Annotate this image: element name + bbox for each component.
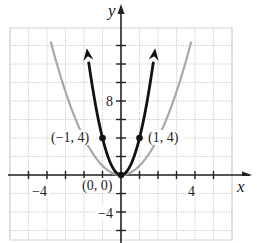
y-axis xyxy=(118,4,125,243)
y-axis-label: y xyxy=(106,1,116,20)
tick-label-y-neg4: −4 xyxy=(98,206,113,221)
tick-label-x-4: 4 xyxy=(188,184,195,199)
point-label-1-4: (1, 4) xyxy=(148,130,179,146)
point-neg1-4 xyxy=(99,135,106,142)
tick-label-y-8: 8 xyxy=(106,94,113,109)
arrow-up-icon xyxy=(83,48,93,61)
graph: x y −4 4 8 −4 (−1, 4) (1, 4) (0, 0) xyxy=(0,0,257,243)
point-origin xyxy=(118,172,125,179)
point-label-origin: (0, 0) xyxy=(82,178,113,194)
point-1-4 xyxy=(136,135,143,142)
y-axis-arrow-icon xyxy=(118,4,125,14)
tick-label-x-neg4: −4 xyxy=(32,184,47,199)
arrow-up-icon xyxy=(149,48,159,61)
x-axis-label: x xyxy=(236,177,245,196)
point-label-neg1-4: (−1, 4) xyxy=(51,130,90,146)
